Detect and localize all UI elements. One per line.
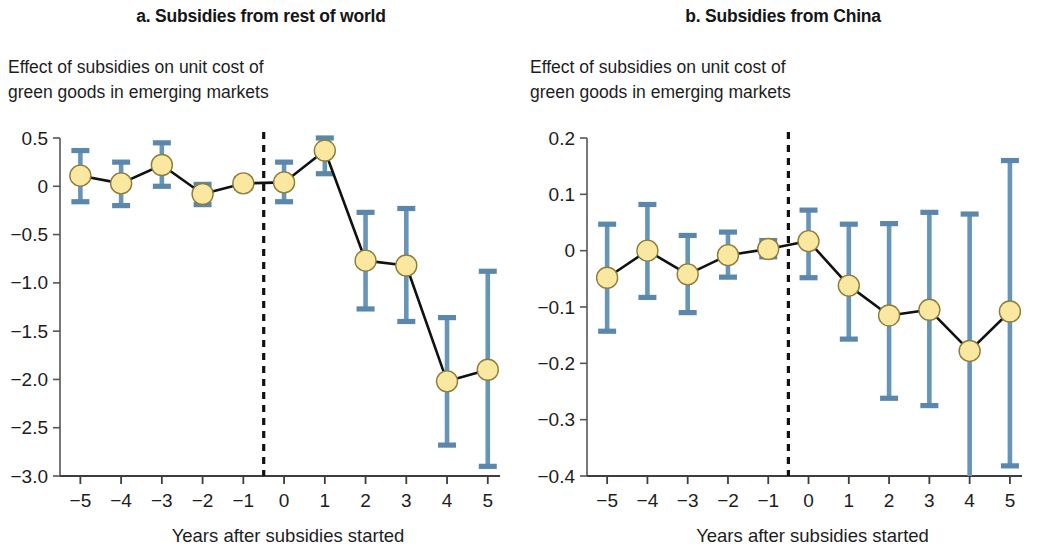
x-tick-label: −4 (637, 490, 659, 511)
data-point-marker (151, 155, 172, 176)
data-point-marker (597, 267, 618, 288)
data-point-marker (677, 264, 698, 285)
panel-b-svg: 0.20.10−0.1−0.2−0.3−0.4−5−4−3−2−1012345Y… (522, 0, 1044, 549)
x-tick-label: 0 (803, 490, 814, 511)
x-tick-label: 2 (884, 490, 895, 511)
data-point-marker (758, 238, 779, 259)
y-tick-label: 0.5 (22, 128, 48, 149)
data-point-marker (111, 173, 132, 194)
data-point-marker (192, 184, 213, 205)
x-tick-label: −1 (757, 490, 779, 511)
figure-root: a. Subsidies from rest of world Effect o… (0, 0, 1044, 549)
panel-b: b. Subsidies from China Effect of subsid… (522, 0, 1044, 549)
panel-a: a. Subsidies from rest of world Effect o… (0, 0, 522, 549)
data-point-marker (959, 340, 980, 361)
x-tick-label: 2 (360, 490, 371, 511)
x-tick-label: 3 (401, 490, 412, 511)
x-tick-label: 1 (320, 490, 331, 511)
data-point-marker (233, 173, 254, 194)
panel-a-plot: 0.50−0.5−1.0−1.5−2.0−2.5−3.0−5−4−3−2−101… (0, 0, 522, 549)
y-tick-label: 0 (564, 240, 575, 261)
x-axis-title: Years after subsidies started (696, 525, 929, 546)
x-tick-label: −5 (596, 490, 618, 511)
data-point-marker (637, 240, 658, 261)
x-tick-label: −2 (192, 490, 214, 511)
y-tick-label: −2.5 (10, 417, 48, 438)
x-tick-label: 4 (442, 490, 453, 511)
y-tick-label: −0.3 (537, 409, 575, 430)
data-point-marker (477, 359, 498, 380)
x-tick-label: −3 (677, 490, 699, 511)
x-tick-label: 4 (964, 490, 975, 511)
data-point-marker (355, 250, 376, 271)
y-tick-label: 0.2 (549, 128, 575, 149)
y-tick-label: 0 (37, 176, 48, 197)
y-tick-label: −3.0 (10, 466, 48, 487)
plot-group: 0.20.10−0.1−0.2−0.3−0.4−5−4−3−2−1012345Y… (537, 128, 1022, 547)
x-tick-label: −4 (110, 490, 132, 511)
x-tick-label: −3 (151, 490, 173, 511)
x-tick-label: 3 (924, 490, 935, 511)
x-tick-label: −2 (717, 490, 739, 511)
x-axis-title: Years after subsidies started (172, 525, 405, 546)
plot-group: 0.50−0.5−1.0−1.5−2.0−2.5−3.0−5−4−3−2−101… (10, 128, 500, 547)
panel-a-svg: 0.50−0.5−1.0−1.5−2.0−2.5−3.0−5−4−3−2−101… (0, 0, 522, 549)
data-point-marker (999, 301, 1020, 322)
x-tick-label: 0 (279, 490, 290, 511)
y-tick-label: −0.4 (537, 466, 575, 487)
data-point-marker (798, 231, 819, 252)
data-point-marker (919, 299, 940, 320)
x-tick-label: 5 (1005, 490, 1016, 511)
y-tick-label: −1.5 (10, 321, 48, 342)
x-tick-label: 5 (482, 490, 493, 511)
data-point-marker (437, 371, 458, 392)
y-tick-label: −0.5 (10, 224, 48, 245)
y-tick-label: −0.1 (537, 297, 575, 318)
x-tick-label: −5 (70, 490, 92, 511)
x-tick-label: −1 (232, 490, 254, 511)
y-tick-label: −0.2 (537, 353, 575, 374)
data-point-marker (717, 245, 738, 266)
data-point-marker (396, 255, 417, 276)
data-point-marker (274, 172, 295, 193)
data-point-marker (70, 165, 91, 186)
data-point-marker (838, 275, 859, 296)
data-point-marker (879, 305, 900, 326)
panel-b-plot: 0.20.10−0.1−0.2−0.3−0.4−5−4−3−2−1012345Y… (522, 0, 1044, 549)
y-tick-label: −2.0 (10, 369, 48, 390)
y-tick-label: 0.1 (549, 184, 575, 205)
x-tick-label: 1 (844, 490, 855, 511)
y-tick-label: −1.0 (10, 272, 48, 293)
data-point-marker (314, 140, 335, 161)
